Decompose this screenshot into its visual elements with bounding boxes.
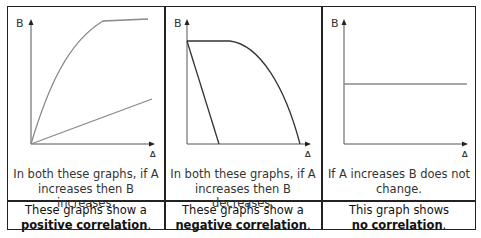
y-axis-label: B (16, 17, 24, 30)
x-axis-label: A (461, 149, 469, 157)
x-axis-label: A (304, 149, 312, 157)
y-axis-label: B (331, 17, 339, 30)
y-arrow-icon (29, 19, 34, 25)
x-arrow-icon (305, 142, 311, 147)
x-arrow-icon (149, 142, 155, 147)
x-arrow-icon (462, 142, 468, 147)
no-correlation-graph: B A (322, 7, 476, 157)
x-axis-label: A (149, 149, 157, 157)
negative-conclusion: These graphs show a negative correlation… (165, 203, 321, 233)
negative-correlation-graph: B A (165, 7, 321, 157)
y-axis-label: B (174, 17, 182, 30)
linear-decreasing-line (187, 41, 219, 144)
y-arrow-icon (342, 19, 347, 25)
concave-increasing-curve (31, 19, 148, 144)
positive-conclusion: These graphs show a positive correlation… (8, 203, 164, 233)
linear-increasing-line (31, 99, 152, 144)
correlation-table: B A In both these graphs, if A increases… (7, 6, 476, 230)
y-arrow-icon (185, 19, 190, 25)
positive-correlation-graph: B A (8, 7, 164, 157)
concave-decreasing-curve (187, 41, 300, 144)
no-correlation-description: If A increases B does not change. (322, 167, 476, 196)
no-correlation-conclusion: This graph shows no correlation. (322, 203, 476, 233)
